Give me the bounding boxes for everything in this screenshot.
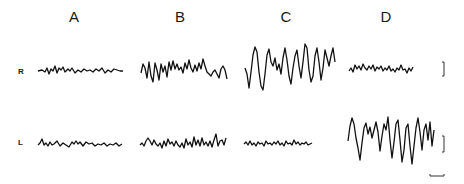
vertical-scale-bar-r	[442, 62, 444, 76]
vertical-scale-bar-l	[442, 136, 444, 152]
trace-c-l	[244, 140, 312, 146]
trace-b-r	[141, 59, 227, 82]
trace-canvas	[0, 0, 464, 184]
trace-b-l	[140, 134, 226, 148]
trace-c-r	[245, 44, 335, 90]
trace-a-r	[38, 66, 123, 74]
trace-d-r	[349, 64, 413, 73]
trace-d-l	[348, 117, 434, 164]
trace-a-l	[38, 139, 122, 147]
horizontal-scale-bar	[430, 174, 444, 176]
